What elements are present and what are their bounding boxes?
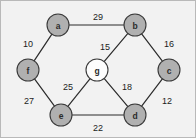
- edge-weight-b-c: 16: [164, 39, 174, 49]
- nodes-layer: abcdefg: [17, 14, 180, 126]
- edge-weight-f-a: 10: [23, 39, 33, 49]
- edge-weight-g-e: 25: [63, 82, 73, 92]
- graph-figure: abcdefg 291612222710151825: [0, 0, 196, 138]
- node-d: d: [124, 104, 146, 126]
- edge-e-f: [35, 79, 55, 106]
- node-label-b: b: [132, 21, 137, 31]
- edge-weight-a-b: 29: [93, 12, 103, 22]
- edge-weight-e-f: 27: [24, 96, 34, 106]
- node-a: a: [47, 14, 69, 36]
- node-c: c: [158, 59, 180, 81]
- node-f: f: [17, 59, 39, 81]
- edge-c-d: [142, 79, 163, 106]
- edge-b-c: [142, 34, 163, 61]
- node-g: g: [86, 59, 108, 81]
- node-b: b: [124, 14, 146, 36]
- node-label-f: f: [27, 66, 30, 76]
- edge-weight-g-b: 15: [100, 42, 110, 52]
- node-label-e: e: [59, 111, 64, 121]
- node-e: e: [50, 104, 72, 126]
- graph-canvas: abcdefg 291612222710151825: [1, 1, 196, 138]
- edge-f-a: [34, 34, 52, 61]
- edge-weight-d-e: 22: [93, 123, 103, 133]
- edge-weight-c-d: 12: [162, 96, 172, 106]
- node-label-g: g: [94, 66, 99, 76]
- node-label-a: a: [56, 21, 61, 31]
- edge-weight-g-d: 18: [122, 82, 132, 92]
- node-label-c: c: [167, 66, 172, 76]
- node-label-d: d: [132, 111, 137, 121]
